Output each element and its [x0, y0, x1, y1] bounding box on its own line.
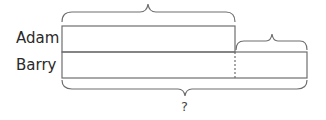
- adam-bar: [62, 26, 235, 52]
- barry-bar: [62, 52, 307, 78]
- adam-brace: [62, 4, 235, 22]
- adam-label: Adam: [16, 31, 59, 46]
- extra-brace: [236, 34, 307, 50]
- total-brace: [62, 80, 307, 96]
- question-label: ?: [181, 100, 188, 113]
- barry-label: Barry: [16, 58, 56, 73]
